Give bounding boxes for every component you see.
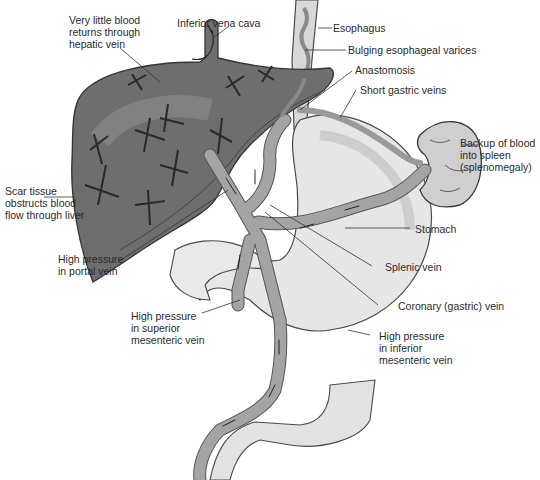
label-short-gastric-veins: Short gastric veins — [360, 84, 446, 96]
label-hepatic-vein: Very little blood returns through hepati… — [69, 14, 140, 50]
label-superior-mesenteric-vein: High pressure in superior mesenteric vei… — [131, 310, 205, 346]
label-splenic-vein: Splenic vein — [385, 261, 442, 273]
label-splenomegaly: Backup of blood into spleen (splenomegal… — [460, 137, 535, 173]
label-inferior-vena-cava: Inferior vena cava — [177, 17, 260, 29]
label-scar-tissue: Scar tissue obstructs blood flow through… — [5, 185, 84, 221]
label-portal-vein: High pressure in portal vein — [58, 253, 123, 277]
anatomy-illustration — [0, 0, 540, 480]
label-anastomosis: Anastomosis — [355, 64, 415, 76]
portal-hypertension-diagram: Very little blood returns through hepati… — [0, 0, 540, 480]
label-stomach: Stomach — [415, 223, 456, 235]
label-coronary-vein: Coronary (gastric) vein — [398, 300, 504, 312]
label-esophagus: Esophagus — [333, 22, 386, 34]
label-esophageal-varices: Bulging esophageal varices — [348, 44, 476, 56]
label-inferior-mesenteric-vein: High pressure in inferior mesenteric vei… — [379, 330, 453, 366]
